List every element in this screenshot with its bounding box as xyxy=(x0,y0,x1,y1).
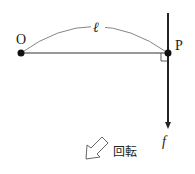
label-length: ℓ xyxy=(93,20,99,35)
force-arrowhead-icon xyxy=(165,122,171,129)
torque-diagram: O P ℓ f 回転 xyxy=(0,0,195,174)
rotation-arrow-icon xyxy=(86,137,108,159)
point-O xyxy=(18,50,25,57)
label-P: P xyxy=(175,38,183,53)
point-P xyxy=(165,50,172,57)
label-force: f xyxy=(162,134,168,149)
label-rotation: 回転 xyxy=(113,145,137,159)
label-O: O xyxy=(16,32,26,47)
